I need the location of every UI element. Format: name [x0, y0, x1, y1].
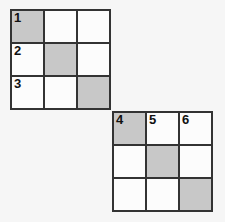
grid-cell[interactable] — [147, 179, 178, 210]
grid-cell[interactable] — [45, 11, 76, 42]
cell-label: 5 — [149, 113, 156, 127]
cell-label: 1 — [14, 11, 21, 25]
cell-label: 4 — [116, 113, 123, 127]
grid-bottom-right: 4 5 6 — [112, 111, 213, 212]
grid-cell[interactable] — [147, 146, 178, 177]
cell-label: 2 — [14, 44, 21, 58]
grid-cell[interactable] — [78, 44, 109, 75]
grid-cell[interactable] — [114, 146, 145, 177]
grid-cell[interactable]: 3 — [12, 77, 43, 108]
grid-cell[interactable]: 6 — [180, 113, 211, 144]
grid-top-left: 1 2 3 — [10, 9, 111, 110]
grid-cell[interactable] — [180, 179, 211, 210]
grid-cell[interactable]: 1 — [12, 11, 43, 42]
grid-cell[interactable] — [78, 11, 109, 42]
grid-cell[interactable]: 4 — [114, 113, 145, 144]
grid-cell[interactable]: 2 — [12, 44, 43, 75]
diagram-canvas: 1 2 3 4 5 6 — [0, 0, 225, 222]
grid-cell[interactable] — [45, 77, 76, 108]
grid-cell[interactable] — [114, 179, 145, 210]
grid-cell[interactable]: 5 — [147, 113, 178, 144]
cell-label: 6 — [182, 113, 189, 127]
grid-cell[interactable] — [45, 44, 76, 75]
cell-label: 3 — [14, 77, 21, 91]
grid-cell[interactable] — [180, 146, 211, 177]
grid-cell[interactable] — [78, 77, 109, 108]
